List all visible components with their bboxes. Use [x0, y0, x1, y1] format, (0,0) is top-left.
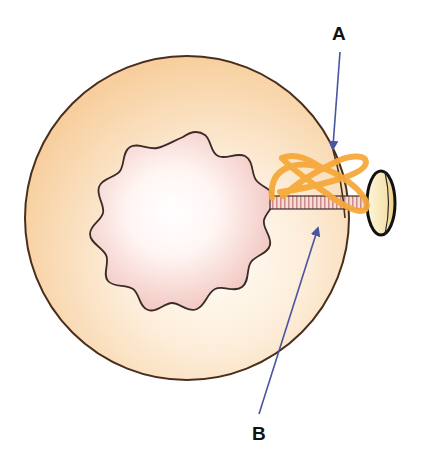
label-a: A	[332, 24, 346, 43]
label-b: B	[252, 424, 266, 443]
cell-diagram	[0, 0, 434, 475]
arrow-a	[333, 52, 340, 146]
knob-disc	[367, 171, 395, 235]
